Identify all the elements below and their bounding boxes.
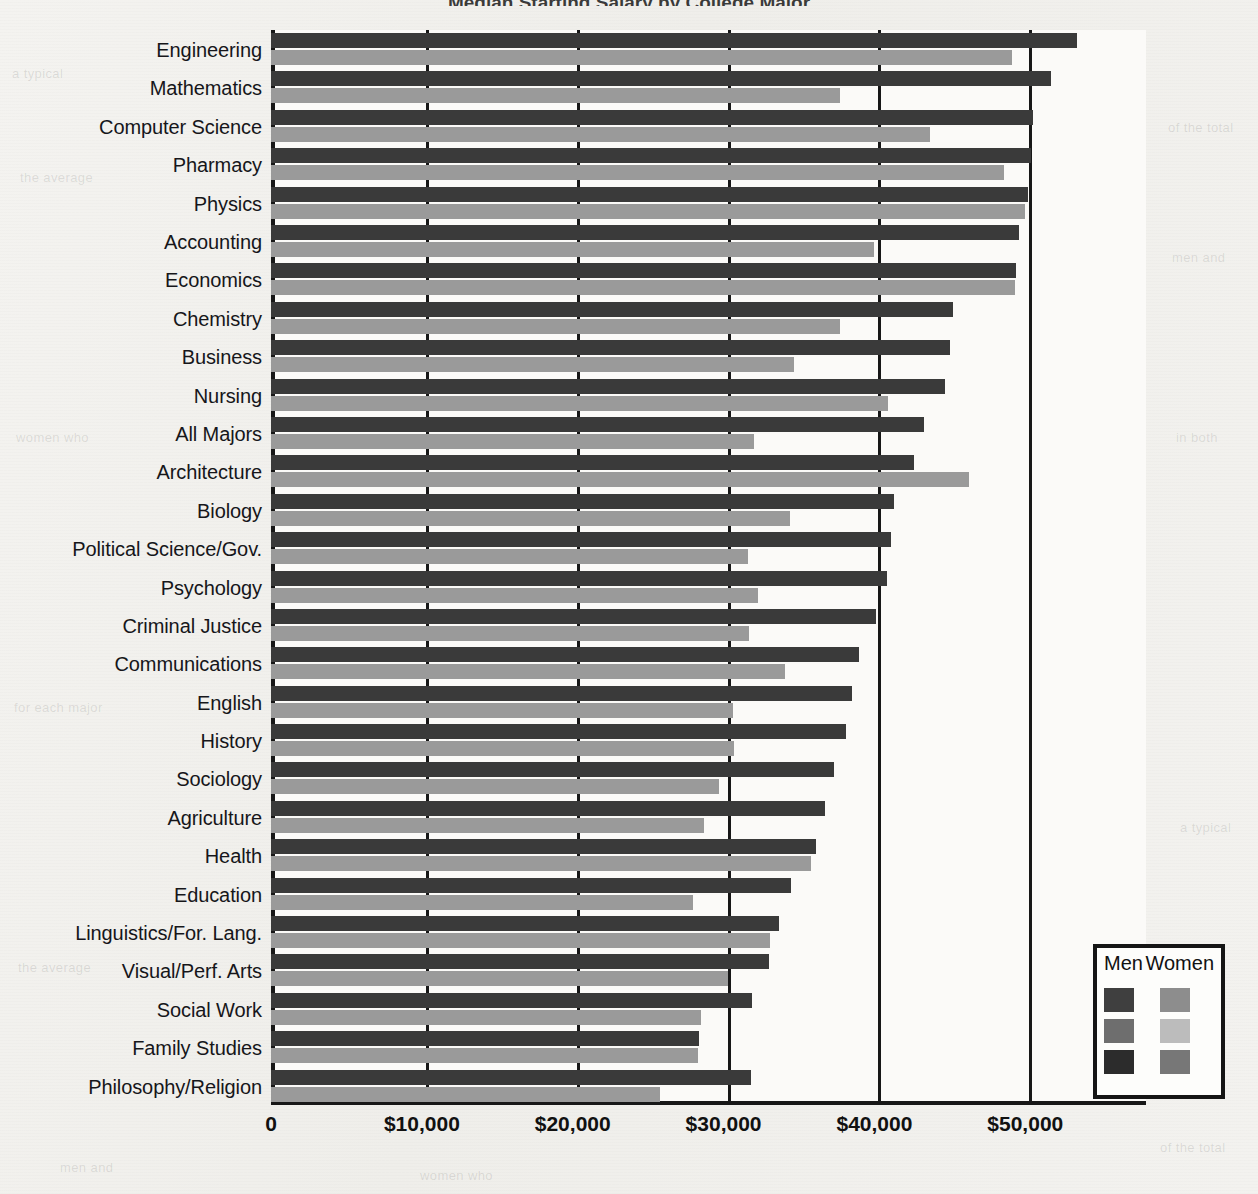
y-axis-label: Family Studies <box>132 1029 262 1067</box>
legend-swatch-grid <box>1104 988 1214 1081</box>
bar-row <box>271 991 1146 1029</box>
bar-row <box>271 146 1146 184</box>
bar-men <box>271 724 846 739</box>
bar-row <box>271 31 1146 69</box>
bar-women <box>271 1087 660 1102</box>
bar-women <box>271 856 811 871</box>
bar-men <box>271 225 1019 240</box>
bar-row <box>271 261 1146 299</box>
salary-bar-chart: Median Starting Salary by College Major … <box>0 0 1258 1194</box>
bar-women <box>271 165 1004 180</box>
bar-men <box>271 263 1016 278</box>
bar-men <box>271 1070 751 1085</box>
bar-men <box>271 686 852 701</box>
y-axis-label: Philosophy/Religion <box>88 1068 262 1106</box>
bar-women <box>271 50 1012 65</box>
legend-swatch-row <box>1104 988 1214 1019</box>
y-axis-label: Agriculture <box>168 799 263 837</box>
legend-swatch-men <box>1104 988 1134 1012</box>
y-axis-label: English <box>197 684 262 722</box>
bar-men <box>271 494 894 509</box>
bar-row <box>271 300 1146 338</box>
bar-women <box>271 204 1025 219</box>
bar-row <box>271 914 1146 952</box>
plot-area <box>271 30 1146 1105</box>
bar-women <box>271 626 749 641</box>
bar-row <box>271 338 1146 376</box>
legend-swatch-women <box>1160 1019 1190 1043</box>
bar-row <box>271 684 1146 722</box>
legend-swatch-men <box>1104 1019 1134 1043</box>
bar-women <box>271 242 874 257</box>
bar-women <box>271 127 930 142</box>
y-axis-label: History <box>200 722 262 760</box>
bar-row <box>271 760 1146 798</box>
y-axis-label: Computer Science <box>99 108 262 146</box>
bar-men <box>271 455 914 470</box>
y-axis-label: Criminal Justice <box>122 607 262 645</box>
y-axis-label: Engineering <box>156 31 262 69</box>
bar-men <box>271 379 945 394</box>
bar-women <box>271 895 693 910</box>
bar-men <box>271 609 876 624</box>
legend-swatch-row <box>1104 1050 1214 1081</box>
legend-swatch-women <box>1160 988 1190 1012</box>
legend-swatch-men <box>1104 1050 1134 1074</box>
y-axis-label: Education <box>174 876 262 914</box>
bar-women <box>271 703 733 718</box>
bar-row <box>271 108 1146 146</box>
x-axis-tick-label: $50,000 <box>987 1112 1063 1136</box>
bar-men <box>271 187 1028 202</box>
legend-heading-women: Women <box>1145 952 1214 975</box>
bar-women <box>271 472 969 487</box>
bar-women <box>271 1048 698 1063</box>
bar-men <box>271 148 1031 163</box>
bar-row <box>271 607 1146 645</box>
bar-men <box>271 532 891 547</box>
bar-women <box>271 933 770 948</box>
y-axis-label: Health <box>205 837 262 875</box>
x-axis-tick-label: $10,000 <box>384 1112 460 1136</box>
bar-women <box>271 818 704 833</box>
y-axis-label: Accounting <box>164 223 262 261</box>
bar-row <box>271 415 1146 453</box>
bar-women <box>271 511 790 526</box>
bar-row <box>271 722 1146 760</box>
bar-row <box>271 1068 1146 1106</box>
bar-men <box>271 340 950 355</box>
y-axis-label: Political Science/Gov. <box>72 530 262 568</box>
bar-women <box>271 280 1015 295</box>
bar-men <box>271 1031 699 1046</box>
bar-row <box>271 952 1146 990</box>
y-axis-label: Pharmacy <box>173 146 262 184</box>
bar-women <box>271 971 728 986</box>
bar-row <box>271 1029 1146 1067</box>
bar-men <box>271 647 859 662</box>
bar-men <box>271 878 791 893</box>
y-axis-label: Chemistry <box>173 300 262 338</box>
bar-row <box>271 377 1146 415</box>
bar-men <box>271 954 769 969</box>
bar-men <box>271 417 924 432</box>
x-axis-tick-labels: 0$10,000$20,000$30,000$40,000$50,000 <box>0 1112 1258 1152</box>
y-axis-label: Architecture <box>156 453 262 491</box>
bar-row <box>271 453 1146 491</box>
legend-swatch-row <box>1104 1019 1214 1050</box>
legend-swatch-women <box>1160 1050 1190 1074</box>
bar-row <box>271 530 1146 568</box>
bar-women <box>271 779 719 794</box>
x-axis-tick-label: $20,000 <box>535 1112 611 1136</box>
chart-legend: Men Women <box>1093 944 1225 1099</box>
y-axis-label: Visual/Perf. Arts <box>122 952 262 990</box>
y-axis-label: Psychology <box>161 569 262 607</box>
y-axis-label: Sociology <box>176 760 262 798</box>
bar-men <box>271 762 834 777</box>
bar-row <box>271 492 1146 530</box>
x-axis-tick-label: 0 <box>265 1112 277 1136</box>
bar-men <box>271 71 1051 86</box>
bar-men <box>271 993 752 1008</box>
y-axis-label: Mathematics <box>150 69 262 107</box>
y-axis-label: Biology <box>197 492 262 530</box>
bar-women <box>271 1010 701 1025</box>
y-axis-label: Physics <box>194 185 262 223</box>
